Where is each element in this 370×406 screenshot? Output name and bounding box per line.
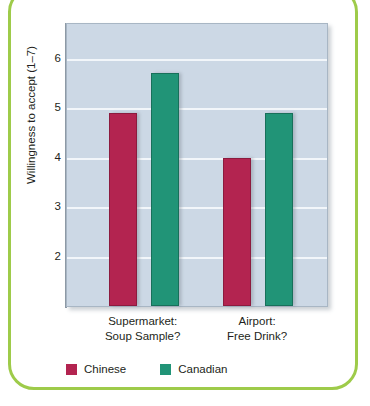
- x-group-label-0: Supermarket:Soup Sample?: [83, 314, 203, 343]
- y-tick-label: 5: [39, 101, 61, 113]
- y-tick-label: 2: [39, 250, 61, 262]
- legend-entry-canadian[interactable]: Canadian: [160, 363, 227, 375]
- legend-label: Canadian: [178, 363, 227, 375]
- bar-chinese-0: [109, 113, 137, 306]
- figure-frame: Willingness to accept (1–7) 23456 Superm…: [8, 0, 358, 390]
- gridline: [67, 59, 327, 61]
- x-label-line: Supermarket:: [83, 314, 203, 329]
- bar-canadian-1: [265, 113, 293, 306]
- legend-swatch-icon: [160, 364, 171, 375]
- plot-area: [66, 23, 328, 307]
- figure-inner: Willingness to accept (1–7) 23456 Superm…: [11, 0, 355, 387]
- x-label-line: Soup Sample?: [83, 329, 203, 344]
- x-axis-labels: Supermarket:Soup Sample?Airport:Free Dri…: [66, 314, 328, 354]
- y-tick-label: 3: [39, 200, 61, 212]
- chart-legend: ChineseCanadian: [66, 363, 261, 375]
- x-label-line: Free Drink?: [197, 329, 317, 344]
- x-group-label-1: Airport:Free Drink?: [197, 314, 317, 343]
- y-tick-label: 4: [39, 151, 61, 163]
- y-axis-ticks: 23456: [33, 23, 61, 307]
- legend-entry-chinese[interactable]: Chinese: [66, 363, 126, 375]
- y-tick-label: 6: [39, 52, 61, 64]
- gridline: [67, 108, 327, 110]
- bar-canadian-0: [151, 73, 179, 306]
- legend-swatch-icon: [66, 364, 77, 375]
- x-label-line: Airport:: [197, 314, 317, 329]
- legend-label: Chinese: [84, 363, 126, 375]
- bar-chinese-1: [223, 158, 251, 306]
